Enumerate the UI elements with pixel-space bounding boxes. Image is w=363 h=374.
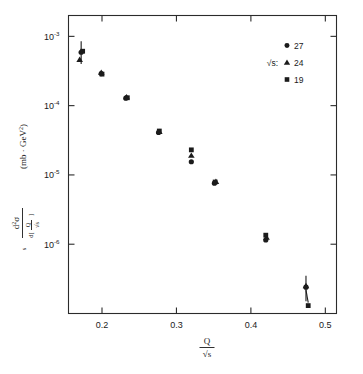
data-point-square: [80, 49, 85, 54]
x-tick-label: 0.5: [319, 320, 332, 330]
data-point-square: [189, 147, 194, 152]
x-axis-title: Q √s: [200, 336, 215, 359]
data-point-square: [263, 233, 268, 238]
legend-marker-triangle: [284, 60, 290, 65]
x-axis-title-numerator: Q: [204, 336, 211, 346]
x-axis-title-denominator: √s: [203, 349, 212, 359]
data-point-triangle: [303, 283, 310, 288]
y-axis-title-s: s: [20, 247, 27, 250]
y-axis-title-denominator-close: ]: [27, 214, 34, 216]
y-tick-label: 10-4: [44, 99, 60, 111]
data-points: [76, 41, 310, 308]
data-point-square: [306, 303, 311, 308]
legend-label: 27: [294, 41, 304, 51]
legend-label: 19: [294, 75, 304, 85]
legend-label: 24: [294, 58, 304, 68]
scatter-plot: 0.20.30.40.5 10-310-410-510-6 272419√s: …: [0, 0, 363, 374]
x-tick-label: 0.4: [245, 320, 258, 330]
y-axis-title-denominator-q: Q: [24, 222, 31, 227]
data-point-square: [125, 95, 130, 100]
figure-container: 0.20.30.40.5 10-310-410-510-6 272419√s: …: [0, 0, 363, 374]
x-tick-label: 0.3: [170, 320, 183, 330]
y-tick-label: 10-5: [44, 168, 60, 180]
y-tick-label: 10-6: [44, 238, 60, 250]
legend-marker-circle: [285, 43, 290, 48]
y-axis-title-denominator-root-s: √s: [33, 221, 40, 228]
x-axis-tick-labels: 0.20.30.40.5: [96, 320, 332, 330]
x-tick-label: 0.2: [96, 320, 109, 330]
y-axis-title: s d2σ d[ Q √s ] (mb · GeV2): [11, 124, 40, 250]
data-point-square: [213, 180, 218, 185]
y-axis-title-units: (mb · GeV2): [18, 124, 28, 169]
y-tick-label: 10-3: [44, 30, 60, 42]
y-axis-title-numerator: d2σ: [11, 217, 21, 230]
data-point-circle: [189, 159, 194, 164]
legend-title: √s:: [267, 58, 278, 68]
data-point-triangle: [76, 57, 83, 62]
legend: 272419√s:: [267, 41, 304, 85]
data-point-square: [100, 72, 105, 77]
legend-marker-square: [285, 77, 290, 82]
y-axis-title-denominator-d: d[: [27, 232, 34, 237]
y-axis-tick-labels: 10-310-410-510-6: [44, 30, 60, 250]
data-point-square: [157, 129, 162, 134]
data-point-triangle: [188, 153, 195, 158]
